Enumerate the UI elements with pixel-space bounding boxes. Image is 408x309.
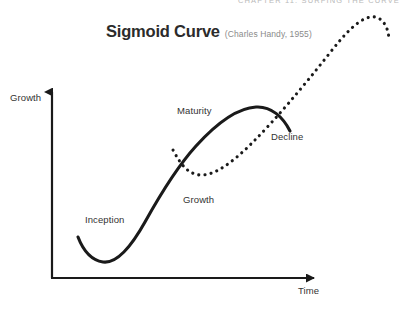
sigmoid-curve-figure: CHAPTER 11: SURFING THE CURVE Sigmoid Cu… xyxy=(0,0,408,309)
x-axis-label: Time xyxy=(298,285,319,296)
chart-canvas xyxy=(0,0,408,309)
y-axis-label: Growth xyxy=(10,92,41,103)
label-decline: Decline xyxy=(271,131,303,142)
label-growth: Growth xyxy=(183,194,214,205)
first-sigmoid-curve xyxy=(78,107,290,262)
label-maturity: Maturity xyxy=(177,105,212,116)
label-inception: Inception xyxy=(85,214,124,225)
second-sigmoid-curve xyxy=(173,17,389,175)
